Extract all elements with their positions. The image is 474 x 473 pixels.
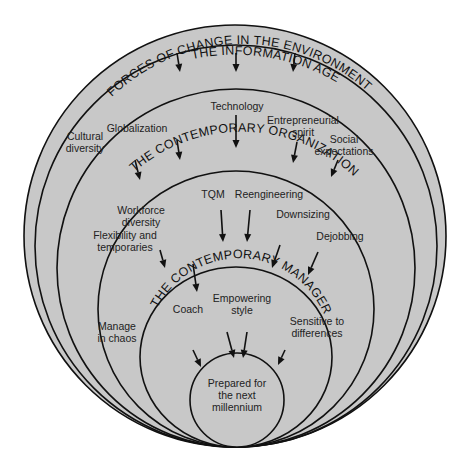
item-label-contemporary-organization: TQM bbox=[201, 188, 224, 200]
item-label-contemporary-manager: Coach bbox=[173, 303, 204, 315]
item-label-contemporary-organization: Downsizing bbox=[276, 208, 330, 220]
item-label-forces-of-change: Culturaldiversity bbox=[66, 130, 105, 154]
item-label-forces-of-change: Globalization bbox=[107, 122, 168, 134]
item-label-contemporary-organization: Flexibility andtemporaries bbox=[93, 229, 157, 253]
item-label-contemporary-manager: Managein chaos bbox=[97, 320, 136, 344]
item-label-contemporary-organization: Dejobbing bbox=[316, 230, 363, 242]
nested-circles-diagram: THE INFORMATION AGE FORCES OF CHANGE IN … bbox=[0, 0, 474, 473]
item-label-contemporary-organization: Workforcediversity bbox=[117, 204, 165, 228]
item-label-forces-of-change: Technology bbox=[210, 100, 264, 112]
item-label-contemporary-manager: Sensitive todifferences bbox=[290, 315, 344, 339]
item-label-contemporary-organization: Reengineering bbox=[235, 188, 303, 200]
